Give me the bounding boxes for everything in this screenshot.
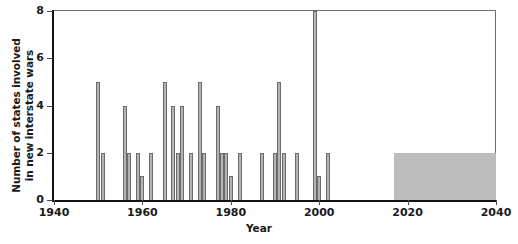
x-tick-label: 2000 xyxy=(294,206,344,219)
bar xyxy=(171,106,175,201)
projection-band xyxy=(394,153,496,200)
bar xyxy=(317,176,321,200)
x-tick-mark xyxy=(319,200,320,205)
chart-figure: Number of states involved in new interst… xyxy=(0,0,518,244)
bar xyxy=(176,153,180,200)
bar xyxy=(326,153,330,200)
bar xyxy=(140,176,144,200)
y-tick-mark xyxy=(47,200,53,201)
y-tick-label: 6 xyxy=(20,51,44,64)
y-tick-mark xyxy=(47,106,53,107)
bar xyxy=(136,153,140,200)
x-tick-mark xyxy=(231,200,232,205)
bar xyxy=(96,82,100,200)
y-tick-label: 8 xyxy=(20,4,44,17)
bar xyxy=(198,82,202,200)
bar xyxy=(101,153,105,200)
y-tick-mark xyxy=(47,153,53,154)
bar xyxy=(220,153,224,200)
x-tick-label: 1980 xyxy=(206,206,256,219)
bar xyxy=(224,153,228,200)
bar xyxy=(189,153,193,200)
x-tick-label: 2020 xyxy=(383,206,433,219)
x-axis-line xyxy=(52,200,496,202)
bar xyxy=(149,153,153,200)
y-tick-label: 0 xyxy=(20,193,44,206)
y-tick-label: 4 xyxy=(20,99,44,112)
bar xyxy=(313,11,317,200)
plot-area: 02468 194019601980200020202040 xyxy=(54,11,496,200)
bar xyxy=(229,176,233,200)
x-tick-mark xyxy=(54,200,55,205)
bar xyxy=(216,106,220,201)
bar xyxy=(277,82,281,200)
bar xyxy=(260,153,264,200)
x-tick-label: 1960 xyxy=(117,206,167,219)
x-tick-mark xyxy=(496,200,497,205)
bar xyxy=(123,106,127,201)
bar xyxy=(202,153,206,200)
y-tick-mark xyxy=(47,58,53,59)
y-tick-label: 2 xyxy=(20,146,44,159)
bar xyxy=(163,82,167,200)
bar xyxy=(180,106,184,201)
x-tick-mark xyxy=(142,200,143,205)
x-tick-label: 1940 xyxy=(29,206,79,219)
plot-top-border xyxy=(54,10,496,11)
y-axis-title: Number of states involved in new interst… xyxy=(10,16,35,216)
bar xyxy=(295,153,299,200)
bar xyxy=(273,153,277,200)
bar xyxy=(282,153,286,200)
x-tick-mark xyxy=(408,200,409,205)
bar xyxy=(238,153,242,200)
y-tick-mark xyxy=(47,11,53,12)
bar xyxy=(127,153,131,200)
x-axis-title: Year xyxy=(0,222,518,234)
x-tick-label: 2040 xyxy=(471,206,518,219)
